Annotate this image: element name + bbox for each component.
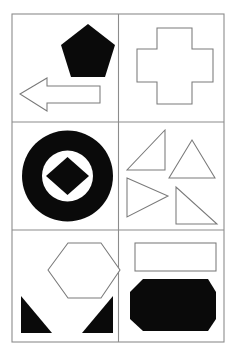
- octagon-shape: [130, 279, 216, 331]
- triangle-upper-right-shape: [169, 140, 215, 178]
- hexagon-shape: [48, 243, 120, 298]
- left-arrow-shape: [20, 78, 100, 111]
- cross-shape: [137, 28, 213, 104]
- shape-grid-page: [0, 0, 236, 356]
- cell-top-left: [20, 24, 115, 111]
- triangle-pointing-right-shape: [127, 178, 168, 217]
- cell-middle-right: [127, 130, 217, 224]
- triangle-lower-right-shape: [176, 187, 217, 224]
- triangle-upper-left-shape: [127, 130, 165, 170]
- triangle-filled-right-shape: [82, 296, 113, 333]
- triangle-filled-left-shape: [21, 296, 52, 333]
- cell-middle-left: [22, 131, 113, 222]
- cell-bottom-right: [130, 243, 216, 331]
- shape-grid-canvas: [0, 0, 236, 356]
- pentagon-shape: [61, 24, 115, 77]
- rectangle-shape: [135, 243, 216, 271]
- cell-top-right: [137, 28, 213, 104]
- cell-bottom-left: [21, 243, 120, 333]
